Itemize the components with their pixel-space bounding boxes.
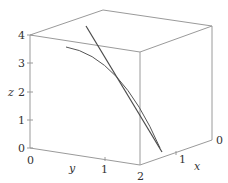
z-tick-label: 2 [18,86,25,99]
y-axis-line [30,148,140,165]
x-tick-label: 1 [179,153,186,166]
z-axis-label: z [7,86,14,99]
z-tick-label: 0 [18,142,25,155]
y-ticks: 0 1 2 y [27,154,144,183]
y-tick-label: 0 [27,154,34,167]
x-axis-label: x [194,160,201,173]
z-tick-label: 1 [18,114,25,127]
x-tick-label: 0 [216,134,223,147]
y-tick-label: 2 [137,170,144,183]
space-curve [66,47,160,148]
x-ticks: 1 0 x [176,134,223,173]
z-tick-label: 4 [18,29,25,42]
3d-plot: 0 1 2 3 4 z 0 1 2 y 1 0 x [0,0,228,183]
z-ticks: 0 1 2 3 4 z [7,29,33,155]
y-axis-label: y [68,162,76,175]
box-top-face [30,10,212,52]
tangent-line [86,26,162,152]
bounding-box [30,10,212,165]
z-tick-label: 3 [18,57,25,70]
y-tick-label: 1 [101,163,108,176]
